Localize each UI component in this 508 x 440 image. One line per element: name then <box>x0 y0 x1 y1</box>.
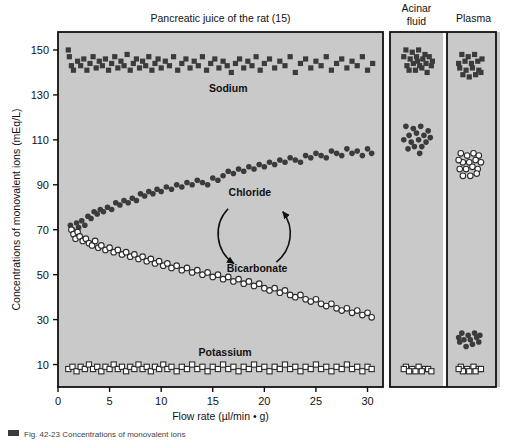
data-point-sodium <box>103 56 108 61</box>
y-axis-title: Concentrations of monovalent ions (mEq/L… <box>10 109 22 311</box>
data-point-potassium <box>236 369 241 374</box>
x-tick-label: 0 <box>55 395 61 407</box>
data-point-bicarbonate <box>174 263 180 269</box>
data-point-bicarbonate <box>458 151 464 157</box>
sodium-label: Sodium <box>209 82 248 94</box>
data-point-sodium <box>109 61 114 66</box>
data-point-potassium <box>169 364 174 369</box>
data-point-bicarbonate <box>282 288 288 294</box>
data-point-potassium <box>406 369 411 374</box>
data-point-bicarbonate <box>369 315 375 321</box>
data-point-sodium <box>344 65 349 70</box>
data-point-chloride <box>256 162 262 168</box>
data-point-chloride <box>403 124 409 130</box>
data-point-bicarbonate <box>225 274 231 280</box>
main-panel-title: Pancreatic juice of the rat (15) <box>150 12 290 24</box>
data-point-sodium <box>324 54 329 59</box>
data-point-sodium <box>171 54 176 59</box>
data-point-bicarbonate <box>184 265 190 271</box>
data-point-potassium <box>184 366 189 371</box>
data-point-chloride <box>134 198 140 204</box>
data-point-chloride <box>287 155 293 161</box>
data-point-chloride <box>109 207 115 213</box>
data-point-potassium <box>355 364 360 369</box>
data-point-potassium <box>419 369 424 374</box>
data-point-chloride <box>200 180 206 186</box>
data-point-bicarbonate <box>215 272 221 278</box>
data-point-sodium <box>90 54 95 59</box>
data-point-sodium <box>258 68 263 73</box>
data-point-chloride <box>401 137 407 143</box>
data-point-sodium <box>200 54 205 59</box>
data-point-chloride <box>456 335 462 341</box>
data-point-sodium <box>473 72 478 77</box>
data-point-potassium <box>360 369 365 374</box>
data-point-sodium <box>187 65 192 70</box>
data-point-chloride <box>339 153 345 159</box>
data-point-bicarbonate <box>92 238 98 244</box>
acinar-fluid-title-line1: Acinar <box>402 2 432 14</box>
data-point-potassium <box>241 364 246 369</box>
y-tick-label: 30 <box>37 314 49 326</box>
data-point-bicarbonate <box>313 297 319 303</box>
data-point-sodium <box>419 65 424 70</box>
data-point-sodium <box>245 59 250 64</box>
data-point-bicarbonate <box>471 151 477 157</box>
data-point-sodium <box>427 54 432 59</box>
data-point-sodium <box>334 61 339 66</box>
data-point-sodium <box>360 54 365 59</box>
data-point-chloride <box>408 139 414 145</box>
data-point-sodium <box>403 47 408 52</box>
data-point-sodium <box>459 52 464 57</box>
data-point-potassium <box>257 366 262 371</box>
data-point-chloride <box>210 175 216 181</box>
data-point-potassium <box>293 364 298 369</box>
data-point-sodium <box>355 63 360 68</box>
data-point-potassium <box>179 364 184 369</box>
data-point-chloride <box>174 182 180 188</box>
data-point-chloride <box>421 133 427 139</box>
data-point-sodium <box>262 61 267 66</box>
data-point-potassium <box>473 369 478 374</box>
data-point-bicarbonate <box>329 301 335 307</box>
data-point-sodium <box>112 54 117 59</box>
acinar-fluid-title-line2: fluid <box>407 15 426 27</box>
data-point-chloride <box>476 339 482 345</box>
data-point-sodium <box>414 54 419 59</box>
data-point-potassium <box>246 366 251 371</box>
data-point-chloride <box>318 153 324 159</box>
data-point-chloride <box>349 151 355 157</box>
data-point-sodium <box>196 63 201 68</box>
data-point-sodium <box>225 63 230 68</box>
data-point-chloride <box>282 160 288 166</box>
data-point-potassium <box>251 362 256 367</box>
data-point-sodium <box>462 59 467 64</box>
data-point-bicarbonate <box>460 173 466 179</box>
data-point-chloride <box>236 166 242 172</box>
data-point-potassium <box>303 364 308 369</box>
chloride-label: Chloride <box>229 186 272 198</box>
data-point-sodium <box>140 59 145 64</box>
data-point-chloride <box>88 216 94 222</box>
x-tick-label: 15 <box>207 395 219 407</box>
data-point-chloride <box>298 160 304 166</box>
data-point-potassium <box>456 366 461 371</box>
data-point-sodium <box>277 59 282 64</box>
data-point-sodium <box>329 68 334 73</box>
data-point-sodium <box>118 59 123 64</box>
data-point-sodium <box>237 56 242 61</box>
data-point-chloride <box>416 137 422 143</box>
data-point-bicarbonate <box>463 166 469 172</box>
data-point-chloride <box>215 177 221 183</box>
data-point-potassium <box>298 369 303 374</box>
data-point-sodium <box>81 56 86 61</box>
data-point-sodium <box>413 68 418 73</box>
data-point-potassium <box>478 366 483 371</box>
x-tick-label: 10 <box>155 395 167 407</box>
data-point-potassium <box>205 369 210 374</box>
figure-container: 1030507090110130150051015202530Flow rate… <box>0 0 508 440</box>
y-tick-label: 130 <box>31 89 49 101</box>
data-point-sodium <box>349 59 354 64</box>
data-point-bicarbonate <box>354 308 360 314</box>
data-point-sodium <box>467 74 472 79</box>
